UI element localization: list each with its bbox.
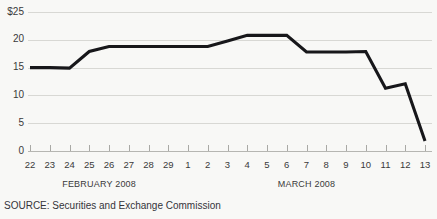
x-axis-tick-label: 5 [264, 159, 269, 170]
x-axis-tick-label: 27 [123, 159, 134, 170]
y-axis-tick-label: $25 [7, 6, 24, 17]
x-axis-tick-label: 26 [104, 159, 115, 170]
y-axis-tick-label: 15 [13, 61, 25, 72]
x-axis-tick-label: 3 [225, 159, 230, 170]
gridlines-group [28, 13, 432, 124]
x-axis-tick-label: 6 [284, 159, 289, 170]
x-axis-tick-label: 11 [381, 159, 391, 170]
x-axis-tick-label: 7 [304, 159, 309, 170]
x-axis-tick-label: 22 [25, 159, 36, 170]
x-axis-tick-label: 2 [205, 159, 210, 170]
x-axis-tick-label: 23 [44, 159, 55, 170]
x-axis-tick-label: 29 [163, 159, 174, 170]
x-axis-labels-group: 222324252627282912345678910111213 [25, 159, 431, 170]
x-axis-tick-label: 12 [400, 159, 411, 170]
y-axis-tick-label: 20 [13, 33, 25, 44]
x-axis-tick-label: 25 [84, 159, 95, 170]
price-line-series [30, 35, 425, 141]
x-axis-tick-label: 4 [245, 159, 250, 170]
source-caption: SOURCE: Securities and Exchange Commissi… [4, 200, 221, 211]
chart-svg: 05101520$25 2223242526272829123456789101… [0, 0, 437, 219]
x-axis-tick-label: 13 [420, 159, 431, 170]
x-axis-tick-label: 1 [185, 159, 190, 170]
x-axis-period-label: MARCH 2008 [278, 179, 336, 189]
x-axis-tick-label: 8 [324, 159, 329, 170]
x-axis-tick-label: 9 [343, 159, 348, 170]
chart-screenshot: 05101520$25 2223242526272829123456789101… [0, 0, 437, 219]
x-axis-tick-label: 28 [143, 159, 154, 170]
line-chart: 05101520$25 2223242526272829123456789101… [0, 0, 437, 219]
x-axis-tick-label: 10 [360, 159, 371, 170]
x-axis-group-labels: FEBRUARY 2008MARCH 2008 [62, 179, 335, 189]
y-axis-labels-group: 05101520$25 [7, 6, 24, 156]
y-axis-tick-label: 5 [18, 117, 24, 128]
x-tickmarks-group [31, 145, 426, 151]
x-axis-tick-label: 24 [64, 159, 75, 170]
y-axis-tick-label: 10 [13, 89, 25, 100]
y-axis-tick-label: 0 [18, 145, 24, 156]
x-axis-period-label: FEBRUARY 2008 [62, 179, 136, 189]
